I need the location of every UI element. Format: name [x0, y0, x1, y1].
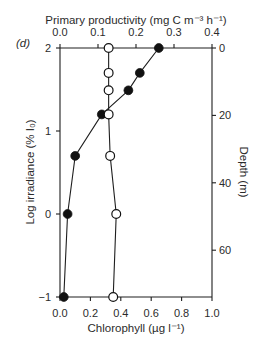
top-tick-label: 0.4: [204, 26, 219, 38]
top-tick-label: 0.0: [52, 26, 67, 38]
open-circle-marker: [104, 86, 113, 95]
open-circle-marker: [104, 69, 113, 78]
filled-circle-marker: [135, 69, 144, 78]
plot-frame: [60, 48, 212, 297]
open-circle-marker: [109, 293, 118, 302]
right-tick-label: 40: [219, 177, 231, 189]
open-circle-marker: [106, 152, 115, 161]
bottom-tick-label: 0.0: [52, 307, 67, 319]
right-axis-title: Depth (m): [238, 146, 250, 197]
left-tick-label: 2: [45, 42, 51, 54]
right-tick-label: 20: [219, 109, 231, 121]
filled-circle-marker: [63, 210, 72, 219]
left-tick-label: −1: [38, 291, 51, 303]
bottom-axis-title: Chlorophyll (µg l⁻¹): [88, 322, 185, 334]
bottom-tick-label: 0.4: [113, 307, 128, 319]
bottom-tick-label: 0.8: [174, 307, 189, 319]
chlorophyll-line: [109, 48, 117, 297]
filled-circle-marker: [124, 86, 133, 95]
filled-circle-marker: [71, 152, 80, 161]
left-tick-label: 0: [45, 208, 51, 220]
top-tick-label: 0.3: [166, 26, 181, 38]
filled-circle-marker: [154, 44, 163, 53]
data-series: [59, 44, 163, 302]
top-axis-title: Primary productivity (mg C m⁻³ h⁻¹): [45, 14, 226, 26]
right-tick-label: 60: [219, 244, 231, 256]
right-tick-label: 0: [219, 42, 225, 54]
panel-label: (d): [16, 37, 30, 49]
bottom-tick-label: 1.0: [204, 307, 219, 319]
open-circle-marker: [112, 210, 121, 219]
top-tick-label: 0.1: [90, 26, 105, 38]
profile-chart: (d) Primary productivity (mg C m⁻³ h⁻¹) …: [0, 0, 259, 346]
open-circle-marker: [104, 44, 113, 53]
open-circle-marker: [104, 110, 113, 119]
filled-circle-marker: [59, 293, 68, 302]
left-tick-label: 1: [45, 125, 51, 137]
bottom-tick-label: 0.2: [83, 307, 98, 319]
primary-productivity-line: [64, 48, 159, 297]
axis-ticks: 0.00.10.20.30.40.00.20.40.60.81.0210−102…: [38, 26, 231, 319]
left-axis-title: Log irradiance (% I₀): [24, 119, 36, 224]
top-tick-label: 0.2: [128, 26, 143, 38]
bottom-tick-label: 0.6: [144, 307, 159, 319]
